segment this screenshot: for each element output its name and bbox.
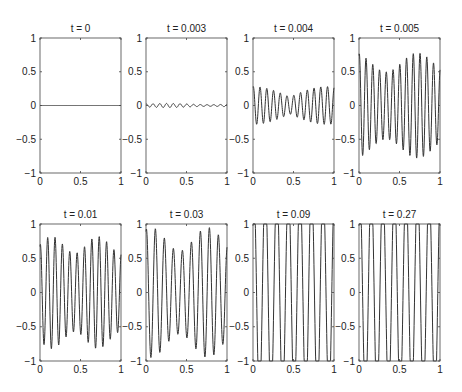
y-tick-label: 0 bbox=[136, 100, 142, 111]
y-tick-label: −0.5 bbox=[16, 321, 36, 332]
data-line bbox=[359, 224, 440, 361]
subplot-title: t = 0.27 bbox=[383, 209, 417, 220]
y-tick-label: 0.5 bbox=[22, 66, 36, 77]
x-tick-label: 0 bbox=[250, 176, 256, 187]
x-tick-label: 0.5 bbox=[180, 364, 194, 375]
figure: 00.51−1−0.500.51t = 000.51−1−0.500.51t =… bbox=[0, 0, 462, 392]
subplot-title: t = 0.01 bbox=[64, 209, 98, 220]
y-tick-label: −1 bbox=[131, 356, 143, 367]
y-tick-label: 0.5 bbox=[341, 253, 355, 264]
subplot-title: t = 0.003 bbox=[167, 23, 207, 34]
y-tick-label: 1 bbox=[243, 33, 249, 44]
data-line bbox=[253, 87, 334, 125]
y-tick-label: 0.5 bbox=[128, 66, 142, 77]
subplot-7: 00.51−1−0.500.51t = 0.09 bbox=[229, 209, 337, 375]
y-tick-label: 0 bbox=[136, 287, 142, 298]
y-tick-label: 0 bbox=[349, 100, 355, 111]
y-tick-label: 0.5 bbox=[235, 66, 249, 77]
data-line bbox=[40, 237, 121, 349]
subplot-5: 00.51−1−0.500.51t = 0.01 bbox=[16, 209, 124, 375]
y-tick-label: −1 bbox=[131, 168, 143, 179]
x-tick-label: 1 bbox=[331, 176, 337, 187]
x-tick-label: 0.5 bbox=[393, 176, 407, 187]
x-tick-label: 1 bbox=[437, 364, 443, 375]
subplot-title: t = 0.004 bbox=[274, 23, 314, 34]
y-tick-label: −0.5 bbox=[122, 321, 142, 332]
y-tick-label: −0.5 bbox=[16, 134, 36, 145]
y-tick-label: −0.5 bbox=[122, 134, 142, 145]
y-tick-label: −1 bbox=[344, 168, 356, 179]
data-line bbox=[359, 53, 440, 158]
y-tick-label: 1 bbox=[30, 33, 36, 44]
x-tick-label: 0 bbox=[37, 364, 43, 375]
y-tick-label: 0 bbox=[243, 287, 249, 298]
y-tick-label: −0.5 bbox=[229, 134, 249, 145]
subplot-8: 00.51−1−0.500.51t = 0.27 bbox=[335, 209, 443, 375]
x-tick-label: 0.5 bbox=[74, 364, 88, 375]
x-tick-label: 1 bbox=[224, 364, 230, 375]
subplot-3: 00.51−1−0.500.51t = 0.004 bbox=[229, 23, 337, 187]
x-tick-label: 0 bbox=[37, 176, 43, 187]
y-tick-label: 0.5 bbox=[235, 253, 249, 264]
y-tick-label: −1 bbox=[238, 356, 250, 367]
subplot-title: t = 0.005 bbox=[380, 23, 420, 34]
x-tick-label: 1 bbox=[118, 364, 124, 375]
axes-frame bbox=[359, 224, 440, 361]
y-tick-label: 0 bbox=[243, 100, 249, 111]
x-tick-label: 0 bbox=[356, 364, 362, 375]
x-tick-label: 1 bbox=[437, 176, 443, 187]
subplot-4: 00.51−1−0.500.51t = 0.005 bbox=[335, 23, 443, 187]
y-tick-label: 0 bbox=[30, 100, 36, 111]
y-tick-label: −0.5 bbox=[335, 321, 355, 332]
y-tick-label: −1 bbox=[344, 356, 356, 367]
x-tick-label: 0.5 bbox=[287, 364, 301, 375]
x-tick-label: 1 bbox=[118, 176, 124, 187]
subplot-6: 00.51−1−0.500.51t = 0.03 bbox=[122, 209, 230, 375]
subplot-2: 00.51−1−0.500.51t = 0.003 bbox=[122, 23, 230, 187]
y-tick-label: 1 bbox=[349, 219, 355, 230]
y-tick-label: 0.5 bbox=[341, 66, 355, 77]
y-tick-label: 1 bbox=[136, 219, 142, 230]
x-tick-label: 1 bbox=[331, 364, 337, 375]
subplot-title: t = 0.03 bbox=[170, 209, 204, 220]
x-tick-label: 0 bbox=[250, 364, 256, 375]
subplot-title: t = 0 bbox=[71, 23, 91, 34]
x-tick-label: 1 bbox=[224, 176, 230, 187]
x-tick-label: 0.5 bbox=[74, 176, 88, 187]
subplot-1: 00.51−1−0.500.51t = 0 bbox=[16, 23, 124, 187]
x-tick-label: 0 bbox=[143, 176, 149, 187]
y-tick-label: 0 bbox=[30, 287, 36, 298]
y-tick-label: −1 bbox=[25, 168, 37, 179]
y-tick-label: 1 bbox=[30, 219, 36, 230]
y-tick-label: −0.5 bbox=[335, 134, 355, 145]
y-tick-label: 0 bbox=[349, 287, 355, 298]
x-tick-label: 0.5 bbox=[393, 364, 407, 375]
x-tick-label: 0 bbox=[356, 176, 362, 187]
y-tick-label: −0.5 bbox=[229, 321, 249, 332]
subplot-title: t = 0.09 bbox=[277, 209, 311, 220]
y-tick-label: 1 bbox=[136, 33, 142, 44]
y-tick-label: 0.5 bbox=[128, 253, 142, 264]
axes-frame bbox=[253, 224, 334, 361]
x-tick-label: 0.5 bbox=[287, 176, 301, 187]
y-tick-label: 1 bbox=[243, 219, 249, 230]
y-tick-label: 0.5 bbox=[22, 253, 36, 264]
data-line bbox=[146, 103, 227, 107]
y-tick-label: 1 bbox=[349, 33, 355, 44]
y-tick-label: −1 bbox=[25, 356, 37, 367]
x-tick-label: 0 bbox=[143, 364, 149, 375]
data-line bbox=[253, 224, 334, 361]
x-tick-label: 0.5 bbox=[180, 176, 194, 187]
y-tick-label: −1 bbox=[238, 168, 250, 179]
data-line bbox=[146, 228, 227, 358]
